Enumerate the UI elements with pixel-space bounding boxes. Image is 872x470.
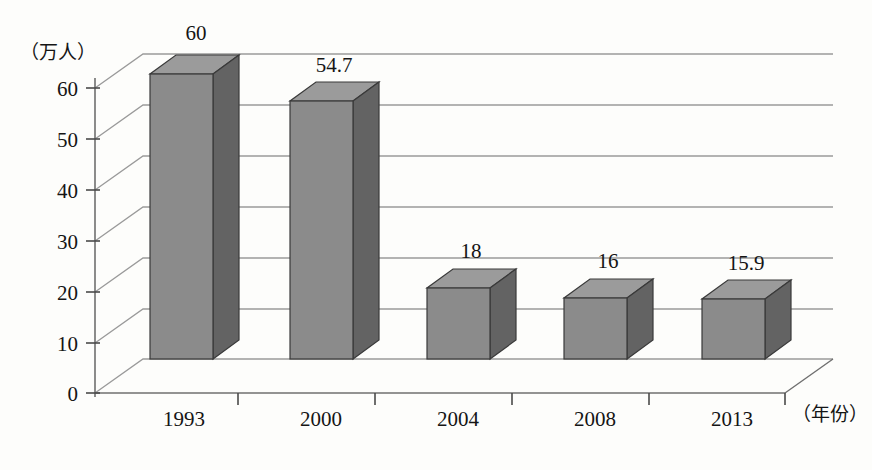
bar-value-label-2008: 16 (598, 249, 619, 273)
y-tick-label-60: 60 (57, 77, 78, 101)
plot-background (0, 0, 872, 470)
x-tick-label-2000: 2000 (300, 407, 342, 431)
x-tick-label-2004: 2004 (437, 407, 480, 431)
x-tick-label-2013: 2013 (711, 407, 753, 431)
bar-value-label-2004: 18 (461, 239, 482, 263)
y-tick-label-10: 10 (57, 332, 78, 356)
bar-1993[interactable] (150, 55, 239, 359)
bar-side-face (353, 82, 379, 359)
bar-value-label-2000: 54.7 (316, 53, 353, 77)
bar-value-label-2013: 15.9 (728, 251, 765, 275)
bar-2000[interactable] (290, 82, 379, 359)
bar-2004[interactable] (427, 269, 516, 359)
y-tick-label-20: 20 (57, 281, 78, 305)
bar-value-label-1993: 60 (186, 21, 207, 45)
bar-2013[interactable] (702, 280, 791, 359)
bar-front-face (150, 74, 213, 359)
bar-front-face (427, 288, 490, 359)
x-tick-label-2008: 2008 (574, 407, 616, 431)
bar-2008[interactable] (564, 279, 653, 359)
x-axis-unit-label: （年份） (792, 404, 868, 425)
bar-front-face (702, 299, 765, 359)
bar-front-face (290, 101, 353, 359)
bar-chart-3d: 60 50 40 30 20 10 0 （万人） 1993 2000 2004 … (0, 0, 872, 470)
y-axis-unit-label: （万人） (20, 42, 96, 63)
y-tick-label-40: 40 (57, 179, 78, 203)
bar-front-face (564, 298, 627, 359)
y-tick-label-0: 0 (68, 382, 79, 406)
bar-side-face (213, 55, 239, 359)
chart-container: 60 50 40 30 20 10 0 （万人） 1993 2000 2004 … (0, 0, 872, 470)
y-tick-label-50: 50 (57, 128, 78, 152)
x-tick-label-1993: 1993 (163, 407, 205, 431)
y-tick-label-30: 30 (57, 230, 78, 254)
